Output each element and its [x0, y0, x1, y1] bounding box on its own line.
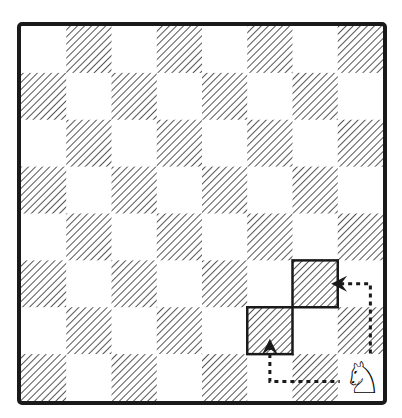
square-f3 [247, 260, 293, 307]
square-d6 [157, 120, 203, 167]
white-knight-icon: ♘ [343, 352, 382, 403]
square-f4 [247, 214, 293, 261]
square-a6 [21, 120, 67, 167]
square-f8 [247, 26, 293, 73]
square-f7 [247, 73, 293, 120]
square-c5 [112, 167, 158, 214]
square-c6 [112, 120, 158, 167]
square-d8 [157, 26, 203, 73]
square-g8 [293, 26, 339, 73]
square-a4 [21, 214, 67, 261]
square-b2 [66, 307, 112, 354]
square-a8 [21, 26, 67, 73]
square-d2 [157, 307, 203, 354]
square-a5 [21, 167, 67, 214]
square-h6 [338, 120, 384, 167]
highlight-g3 [293, 260, 338, 307]
square-a3 [21, 260, 67, 307]
square-g4 [293, 214, 339, 261]
square-b5 [66, 167, 112, 214]
chessboard: ♘ [17, 22, 387, 405]
square-b8 [66, 26, 112, 73]
square-d5 [157, 167, 203, 214]
square-b4 [66, 214, 112, 261]
square-c2 [112, 307, 158, 354]
square-d4 [157, 214, 203, 261]
square-d3 [157, 260, 203, 307]
square-h5 [338, 167, 384, 214]
square-f6 [247, 120, 293, 167]
square-h2 [338, 307, 384, 354]
square-b1 [66, 354, 112, 401]
square-f5 [247, 167, 293, 214]
square-a1 [21, 354, 67, 401]
square-e6 [202, 120, 248, 167]
square-g2 [293, 307, 339, 354]
square-g7 [293, 73, 339, 120]
square-g5 [293, 167, 339, 214]
square-b6 [66, 120, 112, 167]
square-d1 [157, 354, 203, 401]
square-e2 [202, 307, 248, 354]
square-a7 [21, 73, 67, 120]
square-g6 [293, 120, 339, 167]
square-c3 [112, 260, 158, 307]
square-c1 [112, 354, 158, 401]
square-c7 [112, 73, 158, 120]
square-c8 [112, 26, 158, 73]
square-b7 [66, 73, 112, 120]
square-e4 [202, 214, 248, 261]
square-e8 [202, 26, 248, 73]
square-h3 [338, 260, 384, 307]
square-e3 [202, 260, 248, 307]
square-e5 [202, 167, 248, 214]
square-h8 [338, 26, 384, 73]
square-c4 [112, 214, 158, 261]
square-g1 [293, 354, 339, 401]
square-h7 [338, 73, 384, 120]
square-e1 [202, 354, 248, 401]
square-e7 [202, 73, 248, 120]
square-d7 [157, 73, 203, 120]
square-f1 [247, 354, 293, 401]
square-b3 [66, 260, 112, 307]
square-h4 [338, 214, 384, 261]
chessboard-diagram: ♘ [17, 22, 387, 405]
square-a2 [21, 307, 67, 354]
